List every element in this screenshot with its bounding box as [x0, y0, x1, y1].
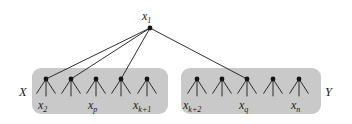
node-dot-n2[interactable] [69, 77, 74, 82]
node-label-xk2-subscript: k+2 [188, 105, 201, 114]
node-label-xn-subscript: n [296, 105, 300, 114]
node-dot-x2[interactable] [44, 77, 49, 82]
root-node-label-subscript: 1 [147, 16, 151, 25]
node-label-xq: xq [239, 99, 248, 111]
node-dot-m2[interactable] [220, 77, 225, 82]
node-dot-m4[interactable] [271, 77, 276, 82]
node-label-xk2: xk+2 [183, 99, 201, 111]
node-label-xp: xp [88, 99, 97, 111]
node-dot-xk2[interactable] [195, 77, 200, 82]
node-label-xk1-subscript: k+1 [138, 105, 151, 114]
set-label-X: X [19, 86, 27, 99]
root-node-label: x1 [142, 10, 151, 22]
set-label-Y: Y [325, 86, 332, 99]
tree-diagram-figure: x1XYx2xpxk+1xk+2xqxn [0, 0, 352, 124]
node-dot-xp[interactable] [94, 77, 99, 82]
node-dot-x1[interactable] [148, 26, 153, 31]
node-label-xk1: xk+1 [133, 99, 151, 111]
node-dot-n4[interactable] [119, 77, 124, 82]
node-label-x2: x2 [38, 99, 47, 111]
node-label-x2-subscript: 2 [43, 105, 47, 114]
node-dot-xq[interactable] [245, 77, 250, 82]
node-label-xn: xn [291, 99, 300, 111]
node-label-xp-subscript: p [93, 105, 97, 114]
node-dot-xn[interactable] [297, 77, 302, 82]
node-dot-xk1[interactable] [145, 77, 150, 82]
node-label-xq-subscript: q [244, 105, 248, 114]
